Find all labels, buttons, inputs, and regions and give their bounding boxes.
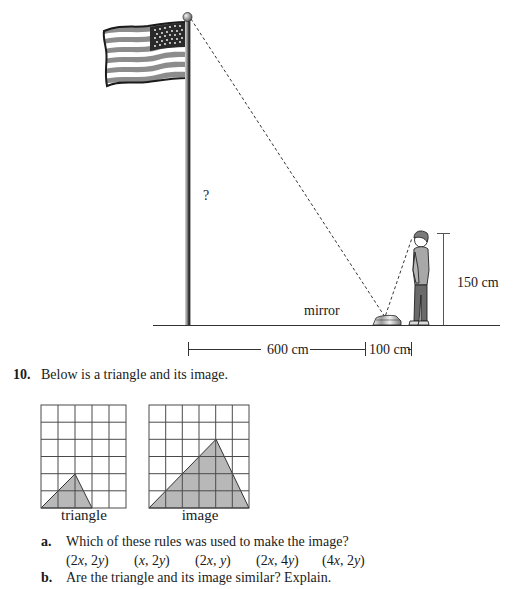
- unknown-height-label: ?: [203, 188, 209, 204]
- flagpole-finial: [183, 13, 192, 22]
- mirror-icon: [373, 315, 401, 325]
- image-grid: [148, 404, 252, 510]
- part-a-text: Which of these rules was used to make th…: [66, 534, 349, 550]
- part-b-text: Are the triangle and its image similar? …: [66, 570, 331, 586]
- distance-left-label: 600 cm: [267, 342, 309, 358]
- rule-option: (x, 2y): [134, 553, 170, 569]
- sight-line: [191, 19, 412, 317]
- flagpole-mirror-diagram: [0, 0, 521, 370]
- triangle-grid: [40, 404, 128, 510]
- rule-option: (4x, 2y): [322, 553, 365, 569]
- height-label: 150 cm: [457, 275, 499, 291]
- flagpole: [185, 18, 191, 325]
- image-caption: image: [148, 507, 252, 524]
- height-dimension: [437, 233, 450, 325]
- question-prompt: Below is a triangle and its image.: [41, 367, 228, 383]
- question-number: 10.: [13, 367, 31, 383]
- part-a-letter: a.: [41, 534, 52, 550]
- flag-icon: [100, 18, 190, 90]
- rule-option: (2x, y): [195, 553, 231, 569]
- rule-option: (2x, 4y): [256, 553, 299, 569]
- part-b-letter: b.: [41, 570, 52, 586]
- triangle-caption: triangle: [40, 507, 128, 524]
- boy-figure: [409, 231, 429, 325]
- rule-option: (2x, 2y): [66, 553, 109, 569]
- distance-right-label: 100 cm: [369, 342, 411, 358]
- mirror-label: mirror: [304, 303, 340, 319]
